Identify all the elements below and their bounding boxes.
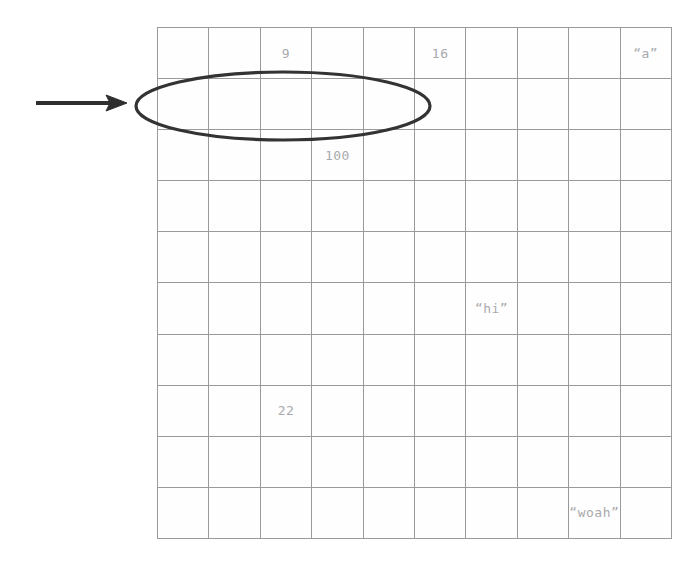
grid-cell[interactable] bbox=[209, 487, 260, 538]
grid-cell[interactable]: “a” bbox=[620, 28, 671, 79]
grid-cell[interactable] bbox=[569, 79, 620, 130]
grid-cell[interactable] bbox=[312, 79, 363, 130]
grid-cell[interactable] bbox=[517, 28, 568, 79]
grid-cell[interactable] bbox=[363, 334, 414, 385]
grid-cell[interactable] bbox=[158, 130, 209, 181]
grid-cell[interactable] bbox=[363, 385, 414, 436]
grid-cell[interactable] bbox=[466, 130, 517, 181]
grid-cell[interactable] bbox=[517, 130, 568, 181]
grid-cell[interactable] bbox=[466, 28, 517, 79]
grid-cell[interactable]: 22 bbox=[260, 385, 311, 436]
grid-cell[interactable] bbox=[620, 334, 671, 385]
grid-cell[interactable]: “hi” bbox=[466, 283, 517, 334]
grid-cell[interactable] bbox=[312, 232, 363, 283]
grid-cell[interactable] bbox=[260, 334, 311, 385]
grid-cell[interactable] bbox=[158, 79, 209, 130]
grid-cell[interactable] bbox=[260, 487, 311, 538]
grid-cell[interactable] bbox=[414, 487, 465, 538]
grid-cell[interactable] bbox=[209, 232, 260, 283]
grid-cell[interactable] bbox=[260, 130, 311, 181]
grid-cell[interactable] bbox=[158, 181, 209, 232]
grid-cell[interactable] bbox=[569, 232, 620, 283]
grid-cell[interactable] bbox=[158, 436, 209, 487]
grid-cell[interactable]: “woah” bbox=[569, 487, 620, 538]
grid-cell[interactable] bbox=[620, 130, 671, 181]
spreadsheet-grid[interactable]: 9 16 “a” bbox=[157, 27, 672, 539]
grid-cell[interactable] bbox=[414, 232, 465, 283]
grid-cell[interactable] bbox=[260, 283, 311, 334]
table-row[interactable]: 100 bbox=[158, 130, 672, 181]
table-row[interactable] bbox=[158, 79, 672, 130]
grid-cell[interactable] bbox=[209, 436, 260, 487]
grid-cell[interactable]: 16 bbox=[414, 28, 465, 79]
table-row[interactable]: 9 16 “a” bbox=[158, 28, 672, 79]
grid-cell[interactable] bbox=[363, 232, 414, 283]
grid-cell[interactable]: 100 bbox=[312, 130, 363, 181]
grid-cell[interactable] bbox=[569, 28, 620, 79]
grid-cell[interactable] bbox=[260, 79, 311, 130]
grid-cell[interactable] bbox=[260, 436, 311, 487]
grid-cell[interactable] bbox=[312, 487, 363, 538]
grid-cell[interactable] bbox=[466, 232, 517, 283]
grid-cell[interactable] bbox=[312, 385, 363, 436]
table-row[interactable] bbox=[158, 334, 672, 385]
grid-cell[interactable] bbox=[620, 436, 671, 487]
grid-cell[interactable] bbox=[209, 181, 260, 232]
table-row[interactable] bbox=[158, 181, 672, 232]
grid-cell[interactable] bbox=[312, 334, 363, 385]
table-row[interactable]: 22 bbox=[158, 385, 672, 436]
grid-cell[interactable] bbox=[569, 436, 620, 487]
grid-cell[interactable] bbox=[569, 283, 620, 334]
grid-cell[interactable] bbox=[620, 283, 671, 334]
grid-cell[interactable] bbox=[158, 28, 209, 79]
grid-cell[interactable] bbox=[209, 28, 260, 79]
grid-cell[interactable] bbox=[312, 28, 363, 79]
grid-cell[interactable] bbox=[363, 130, 414, 181]
grid-cell[interactable] bbox=[158, 334, 209, 385]
grid-cell[interactable] bbox=[569, 181, 620, 232]
grid-cell[interactable] bbox=[569, 130, 620, 181]
grid-cell[interactable] bbox=[363, 28, 414, 79]
grid-cell[interactable] bbox=[466, 334, 517, 385]
grid-cell[interactable] bbox=[209, 79, 260, 130]
grid-cell[interactable] bbox=[260, 181, 311, 232]
grid-cell[interactable] bbox=[517, 487, 568, 538]
table-row[interactable]: “hi” bbox=[158, 283, 672, 334]
grid-cell[interactable] bbox=[517, 79, 568, 130]
grid-cell[interactable] bbox=[363, 79, 414, 130]
grid-cell[interactable] bbox=[414, 130, 465, 181]
grid-cell[interactable] bbox=[414, 436, 465, 487]
grid-cell[interactable] bbox=[363, 283, 414, 334]
grid-cell[interactable] bbox=[517, 385, 568, 436]
grid-cell[interactable] bbox=[312, 436, 363, 487]
grid-cell[interactable] bbox=[158, 283, 209, 334]
grid-cell[interactable] bbox=[312, 283, 363, 334]
grid-cell[interactable] bbox=[466, 79, 517, 130]
grid-cell[interactable] bbox=[466, 436, 517, 487]
grid-cell[interactable] bbox=[363, 487, 414, 538]
grid-cell[interactable] bbox=[158, 232, 209, 283]
grid-cell[interactable] bbox=[312, 181, 363, 232]
grid-cell[interactable] bbox=[620, 79, 671, 130]
grid-cell[interactable] bbox=[466, 181, 517, 232]
grid-cell[interactable] bbox=[620, 232, 671, 283]
table-row[interactable] bbox=[158, 232, 672, 283]
grid-cell[interactable] bbox=[158, 385, 209, 436]
table-row[interactable] bbox=[158, 436, 672, 487]
grid-cell[interactable] bbox=[414, 334, 465, 385]
grid-cell[interactable] bbox=[363, 436, 414, 487]
grid-cell[interactable] bbox=[517, 334, 568, 385]
grid-cell[interactable] bbox=[414, 385, 465, 436]
grid-cell[interactable] bbox=[209, 130, 260, 181]
grid-cell[interactable] bbox=[414, 181, 465, 232]
grid-cell[interactable] bbox=[517, 283, 568, 334]
grid-cell[interactable] bbox=[414, 79, 465, 130]
grid-cell[interactable] bbox=[466, 487, 517, 538]
grid-cell[interactable] bbox=[363, 181, 414, 232]
grid-cell[interactable] bbox=[569, 385, 620, 436]
grid-cell[interactable] bbox=[414, 283, 465, 334]
grid-cell[interactable] bbox=[620, 181, 671, 232]
grid-cell[interactable] bbox=[158, 487, 209, 538]
grid-cell[interactable] bbox=[209, 385, 260, 436]
grid-cell[interactable] bbox=[466, 385, 517, 436]
